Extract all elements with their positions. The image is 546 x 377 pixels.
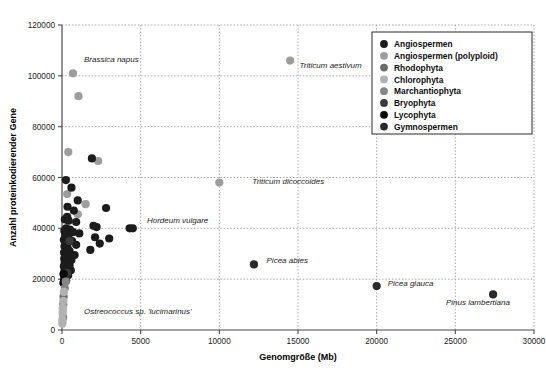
- data-point: [74, 196, 82, 204]
- legend-label: Angiospermen (polyploid): [394, 51, 498, 61]
- data-point: [60, 270, 68, 278]
- y-tick-label: 80000: [32, 123, 55, 132]
- point-annotation-label: Ostreococcus sp. 'lucimarinus': [84, 307, 192, 316]
- y-tick-label: 60000: [32, 174, 55, 183]
- legend: AngiospermenAngiospermen (polyploid)Rhod…: [372, 32, 532, 134]
- x-axis-title: Genomgröße (Mb): [259, 352, 337, 362]
- y-tick-label: 40000: [32, 224, 55, 233]
- legend-label: Bryophyta: [394, 98, 436, 108]
- data-point: [65, 237, 73, 245]
- x-tick-label: 15000: [287, 337, 310, 346]
- data-point: [74, 92, 82, 100]
- data-point: [102, 204, 110, 212]
- data-point: [75, 229, 83, 237]
- legend-label: Gymnospermen: [394, 122, 458, 132]
- data-point: [250, 260, 258, 268]
- data-point: [59, 307, 67, 315]
- y-tick-label: 100000: [28, 72, 56, 81]
- data-point: [129, 224, 137, 232]
- point-annotation-label: Triticum aestivum: [300, 61, 362, 70]
- legend-marker: [380, 40, 388, 48]
- data-point: [86, 246, 94, 254]
- data-point: [215, 178, 223, 186]
- data-point: [82, 200, 90, 208]
- x-tick-label: 20000: [365, 337, 388, 346]
- data-point: [65, 217, 73, 225]
- point-annotation-label: Triticum dicoccoides: [252, 177, 324, 186]
- data-point: [373, 282, 381, 290]
- legend-marker: [380, 76, 388, 84]
- y-tick-label: 120000: [28, 21, 56, 30]
- legend-marker: [380, 99, 388, 107]
- point-annotation-label: Hordeum vulgare: [147, 216, 209, 225]
- chart-figure: 0500010000150002000025000300000200004000…: [0, 0, 546, 377]
- data-point: [489, 290, 497, 298]
- data-point: [88, 154, 96, 162]
- point-annotation-label: Picea abies: [267, 256, 308, 265]
- legend-marker: [380, 111, 388, 119]
- point-annotation-label: Picea glauca: [388, 279, 434, 288]
- y-tick-label: 0: [50, 326, 55, 335]
- legend-marker: [380, 52, 388, 60]
- data-point: [64, 148, 72, 156]
- data-point: [286, 56, 294, 64]
- x-tick-label: 10000: [208, 337, 231, 346]
- data-point: [96, 239, 104, 247]
- data-point: [105, 234, 113, 242]
- data-point: [67, 184, 75, 192]
- legend-label: Rhodophyta: [394, 63, 443, 73]
- point-annotation-label: Brassica napus: [84, 55, 139, 64]
- scatter-plot-svg: 0500010000150002000025000300000200004000…: [0, 0, 546, 377]
- x-tick-label: 30000: [523, 337, 546, 346]
- legend-label: Chlorophyta: [394, 75, 444, 85]
- legend-marker: [380, 123, 388, 131]
- data-point: [72, 218, 80, 226]
- data-point: [69, 69, 77, 77]
- data-point: [70, 206, 78, 214]
- data-point: [60, 288, 68, 296]
- x-tick-label: 0: [60, 337, 65, 346]
- data-point: [93, 223, 101, 231]
- legend-marker: [380, 87, 388, 95]
- axis-titles: Genomgröße (Mb)Anzahl proteinkodierender…: [8, 108, 337, 362]
- x-tick-label: 25000: [444, 337, 467, 346]
- legend-label: Marchantiophyta: [394, 86, 461, 96]
- point-annotation-label: Pinus lambertiana: [446, 298, 511, 307]
- legend-label: Lycophyta: [394, 110, 436, 120]
- data-point: [58, 318, 66, 326]
- legend-label: Angiospermen: [394, 39, 453, 49]
- legend-marker: [380, 64, 388, 72]
- data-point: [62, 176, 70, 184]
- y-axis-title: Anzahl proteinkodierender Gene: [8, 108, 18, 247]
- y-tick-label: 20000: [32, 275, 55, 284]
- x-tick-label: 5000: [132, 337, 151, 346]
